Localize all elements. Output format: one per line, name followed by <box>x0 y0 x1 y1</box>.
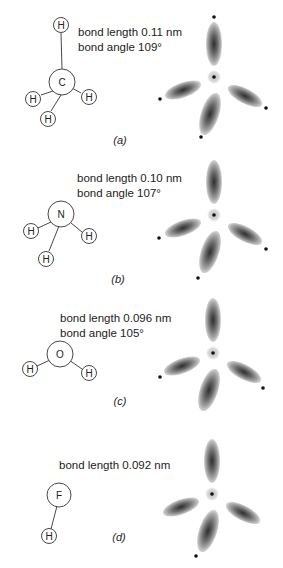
proton-dot <box>212 15 216 19</box>
bond-angle-b: bond angle 107° <box>77 187 161 199</box>
atom-h: H <box>57 20 64 31</box>
bond-length-a: bond length 0.11 nm <box>78 26 182 38</box>
caption-a: (a) <box>113 134 127 146</box>
panel-a: C H H H H bond length 0.11 nm bond angle… <box>26 15 268 146</box>
atom-h: H <box>26 364 33 375</box>
molecular-geometry-figure: C H H H H bond length 0.11 nm bond angle… <box>0 0 283 568</box>
bond-angle-a: bond angle 109° <box>78 41 162 53</box>
proton-dot <box>158 97 162 101</box>
bond-length-c: bond length 0.096 nm <box>60 312 171 324</box>
proton-dot <box>196 276 200 280</box>
proton-dot <box>194 554 198 558</box>
orbital-diagram-d <box>161 439 264 558</box>
atom-central-c: O <box>56 349 64 360</box>
caption-d: (d) <box>112 531 126 543</box>
orbital-diagram-c <box>158 298 265 414</box>
atom-h: H <box>85 231 92 242</box>
proton-dot <box>158 375 162 379</box>
atom-h: H <box>85 368 92 379</box>
panel-c: O H H bond length 0.096 nm bond angle 10… <box>23 298 265 414</box>
proton-dot <box>264 106 268 110</box>
atom-central-d: F <box>56 490 62 501</box>
proton-dot <box>261 386 265 390</box>
atom-h: H <box>45 531 52 542</box>
proton-dot <box>157 236 161 240</box>
proton-dot <box>199 135 203 139</box>
atom-central-b: N <box>57 209 64 220</box>
atom-h: H <box>85 92 92 103</box>
bond-length-d: bond length 0.092 nm <box>59 459 170 471</box>
atom-central-a: C <box>58 77 65 88</box>
caption-b: (b) <box>111 273 125 285</box>
atom-h: H <box>29 94 36 105</box>
proton-dot <box>264 247 268 251</box>
atom-h: H <box>42 254 49 265</box>
atom-h: H <box>27 226 34 237</box>
caption-c: (c) <box>114 395 127 407</box>
bond-length-b: bond length 0.10 nm <box>77 172 182 184</box>
bond-angle-c: bond angle 105° <box>60 327 144 339</box>
panel-b: N H H H bond length 0.10 nm bond angle 1… <box>24 160 268 285</box>
panel-d: F H bond length 0.092 nm (d) <box>42 439 264 558</box>
atom-h: H <box>44 114 51 125</box>
